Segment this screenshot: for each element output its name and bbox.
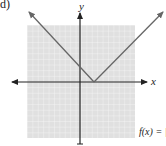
y-axis-label: y (79, 0, 84, 12)
part-label: d) (0, 0, 10, 12)
x-axis-label: x (151, 75, 156, 87)
function-label: f(x) = | (139, 126, 166, 137)
graph-figure (0, 0, 166, 146)
